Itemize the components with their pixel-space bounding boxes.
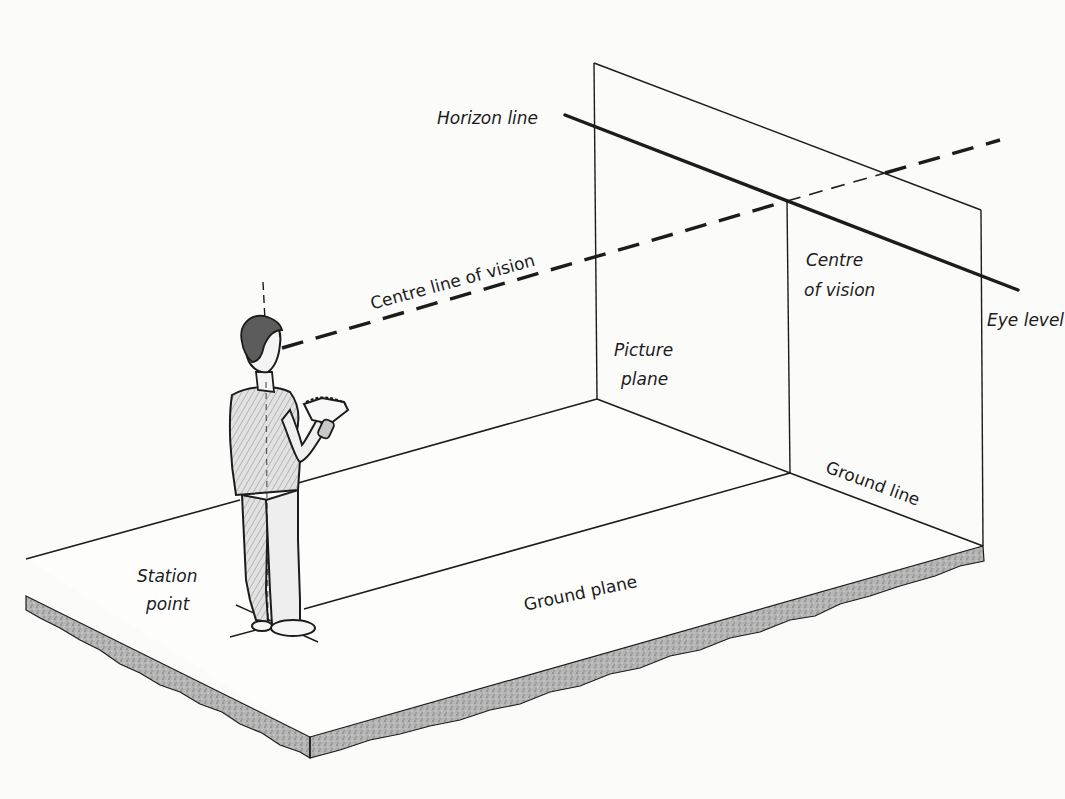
label-station-point-line2: point xyxy=(146,594,189,615)
centre-of-vision-vertical xyxy=(787,201,790,473)
label-centre-of-vision-line1: Centre xyxy=(806,250,863,271)
label-station-point-line1: Station xyxy=(137,566,197,587)
eye-level-vertical xyxy=(263,282,265,320)
horizon-line xyxy=(565,115,1018,290)
perspective-diagram: Horizon line Centre line of vision Centr… xyxy=(0,0,1065,799)
label-eye-level: Eye level xyxy=(987,310,1064,331)
label-picture-plane-line2: plane xyxy=(621,369,668,390)
label-horizon-line: Horizon line xyxy=(437,108,538,129)
centre-line-of-vision xyxy=(282,140,1000,348)
label-picture-plane-line1: Picture xyxy=(614,340,673,361)
label-centre-of-vision-line2: of vision xyxy=(804,280,875,301)
